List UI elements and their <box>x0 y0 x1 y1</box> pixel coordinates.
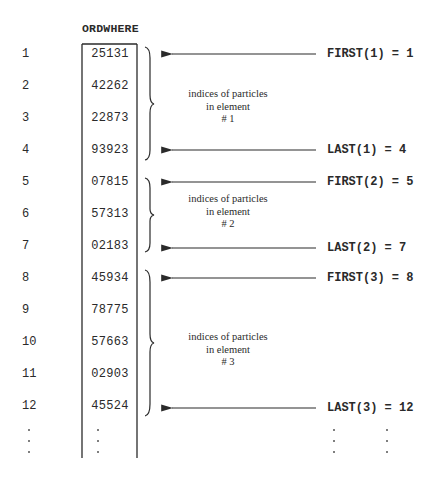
last-label-3: LAST(3) = 12 <box>327 401 413 415</box>
note-element-2: indices of particles in element # 2 <box>168 193 288 231</box>
array-cell: 45934 <box>86 271 134 285</box>
brace-element-2 <box>145 178 154 252</box>
note-line: in element <box>168 101 288 114</box>
row-index: 7 <box>22 239 52 253</box>
row-index: 11 <box>22 367 52 381</box>
note-line: indices of particles <box>168 193 288 206</box>
note-line: in element <box>168 206 288 219</box>
note-line: # 2 <box>168 218 288 231</box>
row-index: 2 <box>22 79 52 93</box>
array-cell: 45524 <box>86 399 134 413</box>
row-index: 4 <box>22 143 52 157</box>
row-index: 8 <box>22 271 52 285</box>
first-label-1: FIRST(1) = 1 <box>327 47 413 61</box>
array-cell: 42262 <box>86 79 134 93</box>
array-cell: 78775 <box>86 303 134 317</box>
array-cell: 07815 <box>86 175 134 189</box>
row-index: 6 <box>22 207 52 221</box>
note-element-1: indices of particles in element # 1 <box>168 88 288 126</box>
last-label-2: LAST(2) = 7 <box>327 241 406 255</box>
row-index: 5 <box>22 175 52 189</box>
note-line: # 3 <box>168 356 288 369</box>
array-cell: 57313 <box>86 207 134 221</box>
note-line: in element <box>168 344 288 357</box>
array-cell: 02903 <box>86 367 134 381</box>
note-line: # 1 <box>168 113 288 126</box>
array-cell: 93923 <box>86 143 134 157</box>
array-cell: 02183 <box>86 239 134 253</box>
row-index: 12 <box>22 399 52 413</box>
row-index: 3 <box>22 111 52 125</box>
row-index: 1 <box>22 47 52 61</box>
note-element-3: indices of particles in element # 3 <box>168 331 288 369</box>
array-cell: 25131 <box>86 47 134 61</box>
first-label-2: FIRST(2) = 5 <box>327 175 413 189</box>
row-index: 10 <box>22 335 52 349</box>
brace-element-3 <box>145 270 154 416</box>
array-cell: 22873 <box>86 111 134 125</box>
brace-element-1 <box>145 47 154 160</box>
note-line: indices of particles <box>168 88 288 101</box>
ordwhere-diagram: ORDWHERE 1 2 3 4 5 <box>0 0 445 484</box>
last-label-1: LAST(1) = 4 <box>327 143 406 157</box>
array-cell: 57663 <box>86 335 134 349</box>
note-line: indices of particles <box>168 331 288 344</box>
first-label-3: FIRST(3) = 8 <box>327 271 413 285</box>
row-index: 9 <box>22 303 52 317</box>
